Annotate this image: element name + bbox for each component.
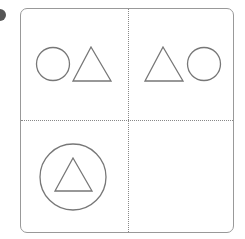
shapes-layer: [0, 0, 245, 239]
triangle-icon: [55, 158, 92, 191]
circle-icon: [188, 48, 221, 81]
triangle-icon: [73, 47, 111, 81]
circle-icon: [37, 48, 70, 81]
triangle-icon: [145, 47, 183, 81]
circle-icon: [40, 144, 106, 210]
